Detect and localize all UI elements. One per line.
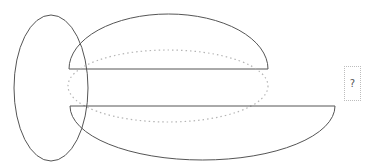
left-ellipse xyxy=(14,15,88,161)
question-placeholder-box: ? xyxy=(344,66,361,101)
lower-half-ellipse xyxy=(70,106,335,160)
upper-half-ellipse xyxy=(69,14,268,69)
dotted-ellipse xyxy=(68,50,268,122)
diagram-canvas xyxy=(0,0,376,168)
question-mark-label: ? xyxy=(350,78,355,89)
